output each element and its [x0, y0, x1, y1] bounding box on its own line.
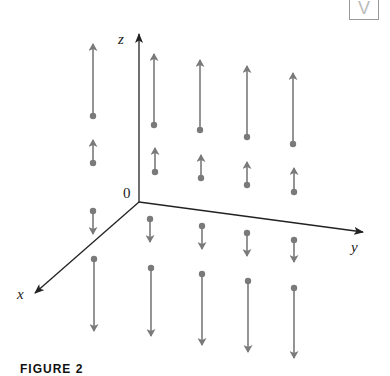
vector-arrow: [245, 278, 251, 352]
figure-caption: FIGURE 2: [20, 362, 83, 376]
vector-arrow: [244, 230, 250, 256]
vector-base-point: [291, 285, 297, 291]
vector-base-point: [291, 189, 297, 195]
y-axis-label: y: [349, 239, 358, 255]
vector-arrow: [90, 140, 96, 166]
vector-arrow: [199, 223, 205, 249]
vector-arrow: [198, 155, 204, 181]
vector-arrow: [291, 285, 297, 358]
vector-base-point: [147, 216, 153, 222]
vector-base-point: [244, 230, 250, 236]
vector-arrow: [147, 216, 153, 242]
vector-arrow: [291, 237, 297, 262]
vector-base-point: [152, 169, 158, 175]
vector-arrow: [244, 66, 250, 140]
vector-base-point: [198, 175, 204, 181]
vector-arrows: [90, 44, 297, 358]
vector-base-point: [148, 265, 154, 271]
vector-base-point: [151, 122, 157, 128]
vector-arrow: [148, 265, 154, 336]
vector-arrow: [291, 168, 297, 195]
vector-arrow: [290, 73, 296, 147]
vector-arrow: [90, 208, 96, 234]
vector-base-point: [290, 141, 296, 147]
vector-base-point: [291, 237, 297, 243]
vector-arrow: [91, 256, 97, 331]
vector-base-point: [90, 160, 96, 166]
vector-base-point: [199, 223, 205, 229]
vector-base-point: [244, 182, 250, 188]
vector-base-point: [199, 271, 205, 277]
badge-text: V: [358, 0, 370, 19]
vector-base-point: [244, 134, 250, 140]
vector-base-point: [90, 208, 96, 214]
vector-arrow: [197, 60, 203, 133]
z-axis-label: z: [117, 31, 124, 47]
vector-arrow: [90, 44, 96, 119]
vector-arrow: [151, 54, 157, 128]
vector-base-point: [91, 256, 97, 262]
vector-base-point: [245, 278, 251, 284]
vector-arrow: [199, 271, 205, 345]
vector-arrow: [152, 148, 158, 175]
origin-label: 0: [123, 185, 131, 201]
y-axis: [139, 202, 363, 232]
x-axis-label: x: [16, 286, 24, 302]
vector-arrow: [244, 162, 250, 188]
coordinate-axes: z y x 0: [16, 31, 363, 302]
vector-base-point: [197, 127, 203, 133]
x-axis: [35, 202, 139, 293]
vector-base-point: [90, 113, 96, 119]
v-badge-icon: V: [349, 0, 379, 20]
